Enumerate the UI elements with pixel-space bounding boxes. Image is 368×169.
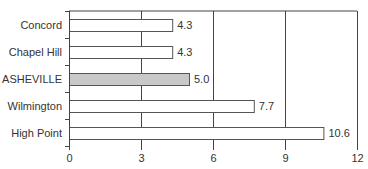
category-label: Chapel Hill (9, 46, 62, 58)
x-tick-label: 3 (138, 152, 144, 164)
value-label: 10.6 (328, 127, 349, 139)
bar-concord (70, 20, 173, 32)
category-label: Wilmington (8, 100, 62, 112)
category-label: Concord (20, 19, 62, 31)
bar-high-point (70, 128, 324, 140)
x-tick-label: 9 (282, 152, 288, 164)
value-label: 7.7 (259, 100, 274, 112)
axes: 036912Concord4.3Chapel Hill4.3ASHEVILLE5… (2, 11, 364, 164)
bar-asheville (70, 74, 190, 86)
value-label: 4.3 (177, 46, 192, 58)
chart-canvas: 036912Concord4.3Chapel Hill4.3ASHEVILLE5… (0, 0, 368, 169)
x-tick-label: 6 (210, 152, 216, 164)
bar-chart: 036912Concord4.3Chapel Hill4.3ASHEVILLE5… (0, 0, 368, 169)
bar-wilmington (70, 101, 255, 113)
x-tick-label: 0 (66, 152, 72, 164)
bar-chapel-hill (70, 47, 173, 59)
category-label: ASHEVILLE (2, 73, 62, 85)
value-label: 5.0 (194, 73, 209, 85)
category-label: High Point (11, 127, 62, 139)
value-label: 4.3 (177, 19, 192, 31)
x-tick-label: 12 (351, 152, 363, 164)
